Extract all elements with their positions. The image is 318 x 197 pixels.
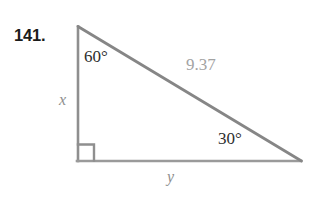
horizontal-leg-variable-label: y: [167, 169, 174, 185]
angle-label-top-60: 60°: [84, 48, 108, 65]
right-angle-square-icon: [78, 145, 94, 161]
figure-canvas: 141. 60° 30° 9.37 x y: [0, 0, 318, 197]
angle-label-right-30: 30°: [218, 130, 242, 147]
hypotenuse-length-label: 9.37: [186, 56, 216, 73]
vertical-leg-variable-label: x: [59, 92, 66, 108]
right-triangle-drawing: [0, 0, 318, 197]
hypotenuse-line: [78, 27, 302, 162]
triangle-outline: [77, 27, 302, 162]
